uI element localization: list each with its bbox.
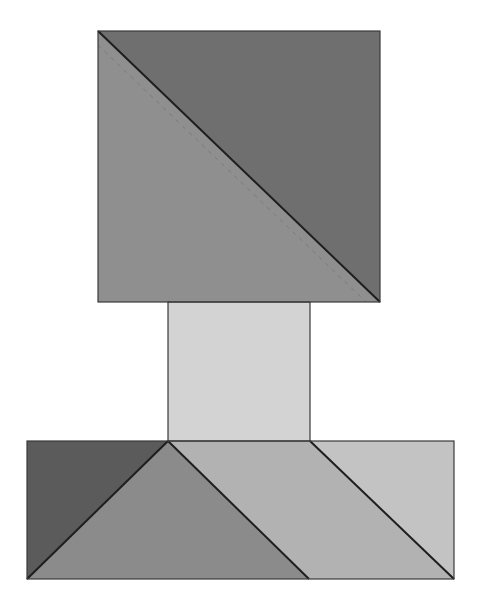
shape-group: [27, 31, 454, 579]
quilt-block-diagram: [0, 0, 481, 609]
middle-rectangle: [168, 302, 310, 441]
